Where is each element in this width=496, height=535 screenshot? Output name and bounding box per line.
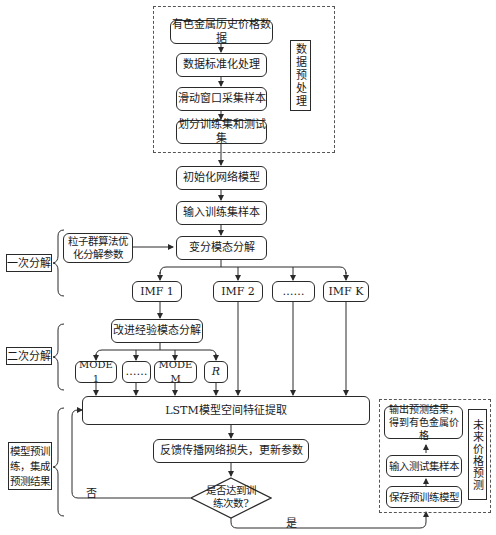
step-standardization: 数据标准化处理 xyxy=(176,53,267,77)
pso-box: 粒子群算法优化分解参数 xyxy=(63,233,133,263)
imf-ellipsis-box: …… xyxy=(272,281,315,302)
save-model-box: 保存预训练模型 xyxy=(386,486,462,508)
step-label: 数据标准化处理 xyxy=(183,58,260,72)
step-split-train-test: 划分训练集和测试集 xyxy=(176,120,267,144)
input-test-box: 输入测试集样本 xyxy=(386,455,462,477)
step-label: 滑动窗口采集样本 xyxy=(178,92,266,106)
output-prediction-box: 输出预测结果，得到有色金属价格 xyxy=(384,406,463,439)
lstm-box: LSTM模型空间特征提取 xyxy=(82,396,370,425)
backprop-box: 反馈传播网络损失，更新参数 xyxy=(153,439,309,463)
pretrain-label: 模型预训练，集成预测结果 xyxy=(8,442,52,490)
init-model-box: 初始化网络模型 xyxy=(176,166,267,190)
step-historical-price-data: 有色金属历史价格数据 xyxy=(170,20,273,44)
imf-k-box: IMF K xyxy=(323,281,369,302)
imf-2-box: IMF 2 xyxy=(213,281,263,302)
mode-ellipsis-box: …… xyxy=(122,361,151,383)
preprocess-label: 数据预处理 xyxy=(290,40,311,111)
mode-m-box: MODE M xyxy=(154,361,197,383)
step-sliding-window: 滑动窗口采集样本 xyxy=(176,87,267,111)
yes-label: 是 xyxy=(286,514,297,530)
vmd-box: 变分模态分解 xyxy=(176,236,267,260)
input-train-box: 输入训练集样本 xyxy=(176,201,267,225)
mode-1-box: MODE 1 xyxy=(75,361,117,383)
decision-text: 是否达到训练次数? xyxy=(206,484,256,510)
imf-1-box: IMF 1 xyxy=(132,281,182,302)
emd-box: 改进经验模态分解 xyxy=(111,319,203,343)
no-label: 否 xyxy=(86,484,97,500)
first-decomposition-label: 一次分解 xyxy=(6,254,52,272)
step-label: 划分训练集和测试集 xyxy=(177,118,266,146)
residual-r-box: R xyxy=(204,361,228,383)
forecast-label: 未来价格预测 xyxy=(468,409,487,500)
step-label: 有色金属历史价格数据 xyxy=(171,18,272,46)
second-decomposition-label: 二次分解 xyxy=(6,347,52,365)
